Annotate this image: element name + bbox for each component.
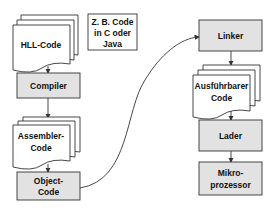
note-line-2: in C oder — [94, 28, 132, 38]
note-line-1: Z. B. Code — [91, 17, 133, 27]
executable-code-document: Ausführbarer Code — [193, 65, 260, 119]
linker-label: Linker — [218, 31, 244, 41]
note-line-3: Java — [103, 39, 122, 49]
microprocessor-label-2: prozessor — [210, 180, 251, 190]
hll-code-document: HLL-Code — [13, 15, 78, 72]
loader-label: Lader — [219, 131, 243, 141]
executable-code-label-2: Code — [211, 93, 233, 103]
arrow-object-to-linker — [80, 37, 199, 188]
object-code-box: Object- Code — [17, 172, 80, 200]
executable-code-label-1: Ausführbarer — [195, 81, 250, 91]
microprocessor-box: Mikro- prozessor — [199, 162, 262, 195]
loader-box: Lader — [199, 120, 262, 151]
microprocessor-label-1: Mikro- — [218, 168, 244, 178]
language-note: Z. B. Code in C oder Java — [88, 14, 137, 50]
compiler-box: Compiler — [17, 73, 80, 98]
assembler-code-label-1: Assembler- — [18, 131, 64, 141]
object-code-label-2: Code — [38, 187, 60, 197]
hll-code-label: HLL-Code — [21, 40, 62, 50]
assembler-code-label-2: Code — [30, 143, 52, 153]
compilation-flow-diagram: HLL-Code Z. B. Code in C oder Java Compi… — [0, 0, 279, 211]
compiler-label: Compiler — [30, 81, 68, 91]
assembler-code-document: Assembler- Code — [13, 117, 80, 169]
object-code-label-1: Object- — [34, 176, 63, 186]
linker-box: Linker — [199, 20, 262, 51]
